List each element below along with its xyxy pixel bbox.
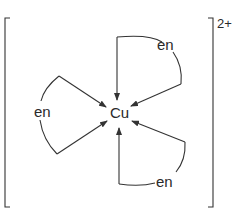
charge-label: 2+ [217,16,232,31]
ligand-label: en [157,36,174,53]
ligand-label: en [34,103,51,120]
ligand-bottom: en [119,121,185,190]
ligand-left: en [34,76,107,154]
complex-diagram: 2+ Cu en en en [0,0,239,217]
ligand-top: en [117,36,181,106]
ligand-label: en [156,173,173,190]
left-bracket [5,18,10,207]
metal-label: Cu [110,104,129,121]
diagram-canvas: 2+ Cu en en en [0,0,239,217]
right-bracket [208,18,213,207]
